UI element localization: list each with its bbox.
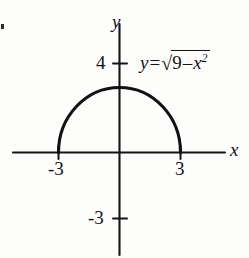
stray-ink-speck — [1, 24, 4, 29]
equation-equals: = — [148, 52, 161, 73]
equation-radicand: 9–x2 — [171, 50, 209, 73]
radicand-exponent: 2 — [202, 51, 208, 65]
graph-canvas — [0, 0, 249, 258]
x-tick-label-3: 3 — [175, 159, 185, 178]
y-tick-label-negative-3: -3 — [88, 208, 104, 227]
x-axis-label: x — [230, 140, 238, 159]
radicand-variable: x — [193, 52, 201, 73]
equation-annotation: y=√9–x2 — [140, 52, 210, 72]
radicand-minus-sign: – — [182, 52, 194, 73]
radical-sign-icon: √ — [161, 52, 172, 74]
radicand-constant: 9 — [172, 52, 182, 73]
x-tick-label-negative-3: -3 — [48, 159, 64, 178]
math-figure-semicircle: y x 4 -3 -3 3 y=√9–x2 — [0, 0, 249, 258]
y-axis-label: y — [112, 12, 120, 31]
y-tick-label-4: 4 — [96, 53, 106, 72]
